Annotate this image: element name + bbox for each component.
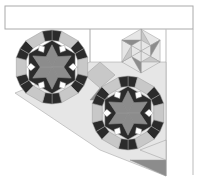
ring-light — [154, 103, 164, 122]
ring-light — [92, 103, 102, 122]
quilt-diagram — [0, 0, 202, 183]
filler — [130, 160, 166, 176]
ring-light — [16, 57, 26, 76]
quilt-pattern-canvas — [0, 0, 202, 183]
title-box — [5, 6, 193, 29]
ring-light — [78, 57, 88, 76]
